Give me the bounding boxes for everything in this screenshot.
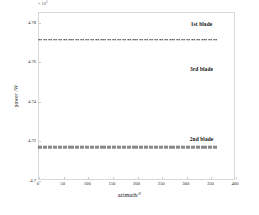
data-point — [186, 39, 187, 41]
y-axis-tick-mark — [39, 23, 41, 24]
data-point — [68, 39, 69, 41]
data-point — [213, 39, 214, 41]
data-point — [167, 39, 168, 41]
data-point — [88, 39, 89, 41]
data-point — [122, 146, 123, 149]
x-axis-tick-label: 0 — [37, 181, 39, 186]
data-point — [147, 146, 148, 149]
data-point — [194, 39, 195, 41]
data-point — [137, 146, 138, 149]
data-point — [191, 39, 192, 41]
data-point — [167, 146, 168, 149]
data-point — [177, 39, 178, 41]
data-point — [88, 146, 89, 149]
data-point — [51, 39, 52, 41]
y-axis-tick-mark — [39, 62, 41, 63]
data-point — [154, 39, 155, 41]
data-point — [132, 39, 133, 41]
data-point — [53, 39, 54, 41]
x-axis-tick-mark — [39, 177, 40, 179]
data-point — [56, 146, 57, 149]
x-axis-tick-label: 50 — [60, 181, 65, 186]
data-point — [132, 39, 133, 41]
data-point — [113, 39, 114, 41]
x-axis-tick-mark — [88, 177, 89, 179]
data-point — [159, 39, 160, 41]
data-point — [142, 146, 143, 149]
data-point — [162, 146, 163, 149]
data-point — [127, 39, 128, 41]
data-point — [174, 39, 175, 41]
data-point — [98, 146, 99, 149]
data-point — [63, 39, 64, 41]
data-point — [93, 39, 94, 41]
series-label-3rd-blade: 3rd blade — [190, 66, 213, 72]
data-point — [162, 39, 163, 41]
data-point — [179, 39, 180, 41]
data-point — [68, 146, 69, 149]
data-point — [191, 146, 192, 149]
data-point — [127, 146, 128, 149]
data-point — [125, 146, 126, 149]
data-point — [179, 146, 180, 149]
data-point — [110, 39, 111, 41]
data-point — [108, 39, 109, 41]
data-point — [93, 146, 94, 149]
data-point — [194, 146, 195, 149]
data-point — [120, 39, 121, 41]
data-point — [203, 146, 204, 149]
data-point — [122, 39, 123, 41]
data-point — [80, 146, 81, 149]
x-axis-ticks: 050100150200250300350400 — [38, 181, 235, 191]
data-point — [130, 39, 131, 41]
data-point — [189, 39, 190, 41]
data-point — [63, 146, 64, 149]
data-point — [46, 39, 47, 41]
data-point — [115, 39, 116, 41]
x-axis-tick-label: 100 — [84, 181, 91, 186]
data-point — [103, 39, 104, 41]
series-label-1st-blade: 1st blade — [191, 21, 212, 27]
data-point — [174, 146, 175, 149]
data-point — [63, 39, 64, 41]
data-point — [53, 39, 54, 41]
data-point — [51, 39, 52, 41]
data-point — [181, 39, 182, 41]
y-axis-multiplier: × 105 — [38, 0, 48, 6]
x-axis-tick-label: 200 — [133, 181, 140, 186]
data-point — [177, 39, 178, 41]
data-point — [130, 39, 131, 41]
data-point — [211, 39, 212, 41]
x-axis-tick-mark — [187, 177, 188, 179]
data-point — [105, 146, 106, 149]
x-axis-tick-mark — [64, 177, 65, 179]
data-point — [73, 39, 74, 41]
data-point — [83, 39, 84, 41]
x-axis-tick-mark — [138, 177, 139, 179]
data-point — [144, 146, 145, 149]
data-point — [46, 39, 47, 41]
x-axis-tick-mark — [236, 177, 237, 179]
data-point — [199, 39, 200, 41]
data-point — [76, 39, 77, 41]
data-point — [120, 39, 121, 41]
data-point — [191, 39, 192, 41]
data-point — [169, 146, 170, 149]
data-point — [145, 39, 146, 41]
x-axis-title: azimuth/° — [0, 192, 259, 198]
data-point — [76, 39, 77, 41]
data-point — [125, 39, 126, 41]
data-point — [81, 39, 82, 41]
data-point — [201, 39, 202, 41]
data-point — [100, 146, 101, 149]
data-point — [61, 39, 62, 41]
data-point — [78, 146, 79, 149]
data-point — [39, 39, 40, 41]
data-point — [113, 39, 114, 41]
data-point — [209, 39, 210, 41]
data-point — [206, 146, 207, 149]
data-point — [46, 146, 47, 149]
x-axis-tick-label: 350 — [207, 181, 214, 186]
data-point — [206, 39, 207, 41]
y-axis-multiplier-base: × 10 — [38, 1, 46, 6]
